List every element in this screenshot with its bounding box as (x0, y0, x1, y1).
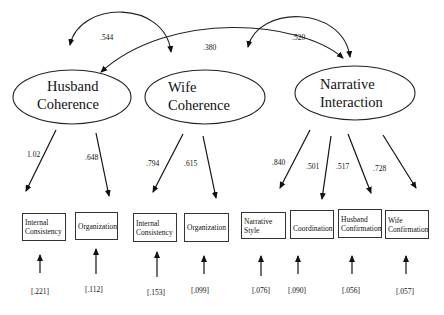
correlation-arrow-380 (101, 27, 343, 72)
correlation-value: .520 (292, 33, 305, 42)
indicator-box-wife-organization: Organization (184, 213, 229, 242)
latent-label-line2: Coherence (37, 95, 99, 113)
loading-value: .517 (336, 162, 349, 171)
indicator-box-husband-organization: Organization (75, 212, 118, 240)
indicator-box-narrative-style: Narrative Style (241, 212, 286, 239)
latent-label-line2: Coherence (168, 96, 230, 114)
loading-arrow-6 (322, 136, 331, 199)
indicator-label: Husband Confirmation (341, 215, 381, 233)
latent-label-wife-coherence: Wife Coherence (168, 78, 230, 114)
latent-label-husband-coherence: Husband Coherence (37, 77, 99, 113)
correlation-arrow-544 (70, 12, 171, 52)
indicator-label: Narrative Style (244, 217, 272, 235)
error-variance: [.090] (288, 286, 306, 295)
loading-value: .615 (184, 159, 197, 168)
error-variance: [.221] (31, 287, 49, 296)
latent-label-line2: Interaction (320, 93, 383, 111)
error-variance: [.057] (396, 287, 414, 296)
loading-arrow-8 (383, 135, 416, 188)
indicator-box-husband-confirmation: Husband Confirmation (338, 209, 382, 238)
indicator-box-wife-internal-consistency: Internal Consistency (133, 213, 177, 242)
error-variance: [.153] (147, 288, 165, 297)
loading-arrow-4 (203, 136, 216, 198)
loading-value: .648 (85, 153, 98, 162)
error-variance: [.099] (191, 286, 209, 295)
error-variance: [.076] (252, 286, 270, 295)
latent-label-line1: Husband (37, 77, 99, 95)
indicator-label: Coordination (293, 224, 333, 233)
indicator-box-coordination: Coordination (290, 210, 334, 239)
indicator-box-husband-internal-consistency: Internal Consistency (22, 213, 66, 241)
loading-arrow-1 (26, 130, 56, 191)
indicator-label: Organization (78, 222, 117, 231)
error-variance: [.056] (342, 286, 360, 295)
loading-value: .728 (373, 164, 386, 173)
loading-arrow-7 (348, 134, 371, 193)
sem-diagram (0, 0, 444, 315)
latent-label-line1: Narrative (320, 75, 383, 93)
indicator-label: Wife Confirmation (388, 216, 428, 234)
latent-label-line1: Wife (168, 78, 230, 96)
loading-value: 1.02 (27, 150, 40, 159)
loading-arrow-2 (96, 133, 109, 196)
correlation-value: .544 (100, 33, 113, 42)
loading-value: .840 (272, 158, 285, 167)
correlation-value: .380 (203, 43, 216, 52)
indicator-box-wife-confirmation: Wife Confirmation (385, 210, 429, 239)
error-variance: [.112] (85, 285, 103, 294)
loading-value: .794 (146, 159, 159, 168)
loading-value: .501 (306, 162, 319, 171)
indicator-label: Internal Consistency (136, 219, 173, 237)
latent-label-narrative-interaction: Narrative Interaction (320, 75, 383, 111)
indicator-label: Internal Consistency (25, 218, 62, 236)
indicator-label: Organization (187, 223, 226, 232)
